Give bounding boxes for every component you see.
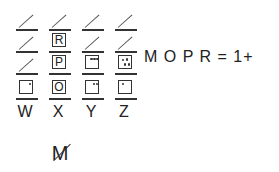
- dot-box-one: [118, 80, 132, 94]
- base-line: [82, 73, 104, 75]
- base-line: [49, 98, 71, 100]
- column-label-w: W: [14, 103, 36, 121]
- diagonal-stroke-icon: [85, 36, 100, 49]
- base-line: [16, 73, 38, 75]
- dot-icon: [96, 83, 99, 86]
- base-line: [16, 98, 38, 100]
- dot-icon: [29, 83, 32, 86]
- cell-w-row3: [16, 53, 38, 75]
- cell-x-row4: O: [49, 78, 71, 100]
- base-line: [49, 73, 71, 75]
- diagonal-stroke-icon: [52, 14, 67, 27]
- dot-box-one: [19, 80, 33, 94]
- cell-x-row1: [49, 9, 71, 31]
- dot-box-two: [85, 80, 99, 94]
- equation-text: M O P R = 1+: [144, 48, 254, 66]
- dot-icon: [128, 63, 131, 66]
- diagonal-stroke-icon: [85, 14, 100, 27]
- dot-icon: [124, 63, 127, 66]
- base-line: [115, 98, 137, 100]
- cell-w-row2: [16, 31, 38, 53]
- base-line: [82, 98, 104, 100]
- dot-icon: [96, 58, 99, 61]
- cell-z-row1: [115, 9, 137, 31]
- diagonal-stroke-icon: [118, 36, 133, 49]
- cell-x-row3: P: [49, 53, 71, 75]
- dot-icon: [122, 59, 125, 62]
- cell-y-row4: [82, 78, 104, 100]
- dot-box-three: [85, 55, 99, 69]
- column-label-x: X: [47, 103, 69, 121]
- letter-box-o: O: [52, 80, 66, 94]
- cell-y-row1: [82, 9, 104, 31]
- column-label-z: Z: [113, 103, 135, 121]
- letter-box-r: R: [52, 33, 66, 47]
- dot-box-four: [118, 55, 132, 69]
- cell-z-row2: [115, 31, 137, 53]
- column-label-y: Y: [80, 103, 102, 121]
- cell-y-row3: [82, 53, 104, 75]
- cell-w-row1: [16, 9, 38, 31]
- dot-icon: [126, 58, 129, 61]
- cell-z-row4: [115, 78, 137, 100]
- dot-icon: [93, 83, 96, 86]
- cell-z-row3: [115, 53, 137, 75]
- diagonal-stroke-icon: [118, 14, 133, 27]
- diagonal-stroke-icon: [19, 58, 34, 71]
- diagonal-stroke-icon: [19, 14, 34, 27]
- base-line: [115, 73, 137, 75]
- letter-box-p: P: [52, 55, 66, 69]
- diagonal-stroke-icon: [19, 36, 34, 49]
- cell-y-row2: [82, 31, 104, 53]
- cell-x-row2: R: [49, 31, 71, 53]
- dot-icon: [122, 83, 125, 86]
- cell-w-row4: [16, 78, 38, 100]
